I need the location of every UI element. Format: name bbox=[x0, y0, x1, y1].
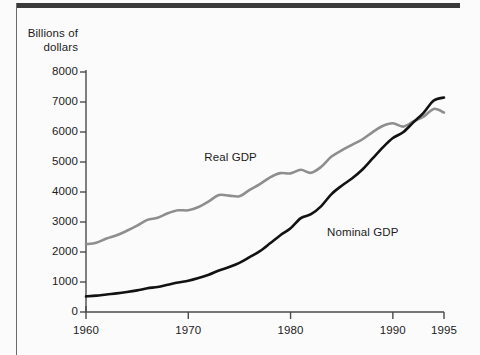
x-tick-label-1980: 1980 bbox=[261, 324, 321, 336]
x-tick-label-1995: 1995 bbox=[414, 324, 474, 336]
y-tick-label-7000: 7000 bbox=[22, 95, 78, 107]
series-label-nominal-gdp: Nominal GDP bbox=[327, 226, 398, 238]
y-tick-label-5000: 5000 bbox=[22, 155, 78, 167]
y-tick-label-4000: 4000 bbox=[22, 185, 78, 197]
y-tick-label-2000: 2000 bbox=[22, 245, 78, 257]
x-tick-label-1970: 1970 bbox=[158, 324, 218, 336]
y-tick-label-0: 0 bbox=[22, 305, 78, 317]
x-tick-label-1960: 1960 bbox=[56, 324, 116, 336]
y-tick-label-3000: 3000 bbox=[22, 215, 78, 227]
y-tick-label-8000: 8000 bbox=[22, 65, 78, 77]
series-label-real-gdp: Real GDP bbox=[204, 151, 257, 163]
plot-area bbox=[0, 0, 480, 355]
gdp-line-chart-figure: Billions of dollars 01000200030004000500… bbox=[0, 0, 480, 355]
y-tick-label-6000: 6000 bbox=[22, 125, 78, 137]
series-line-real-gdp bbox=[86, 109, 444, 244]
y-tick-label-1000: 1000 bbox=[22, 275, 78, 287]
series-line-nominal-gdp bbox=[86, 98, 444, 297]
